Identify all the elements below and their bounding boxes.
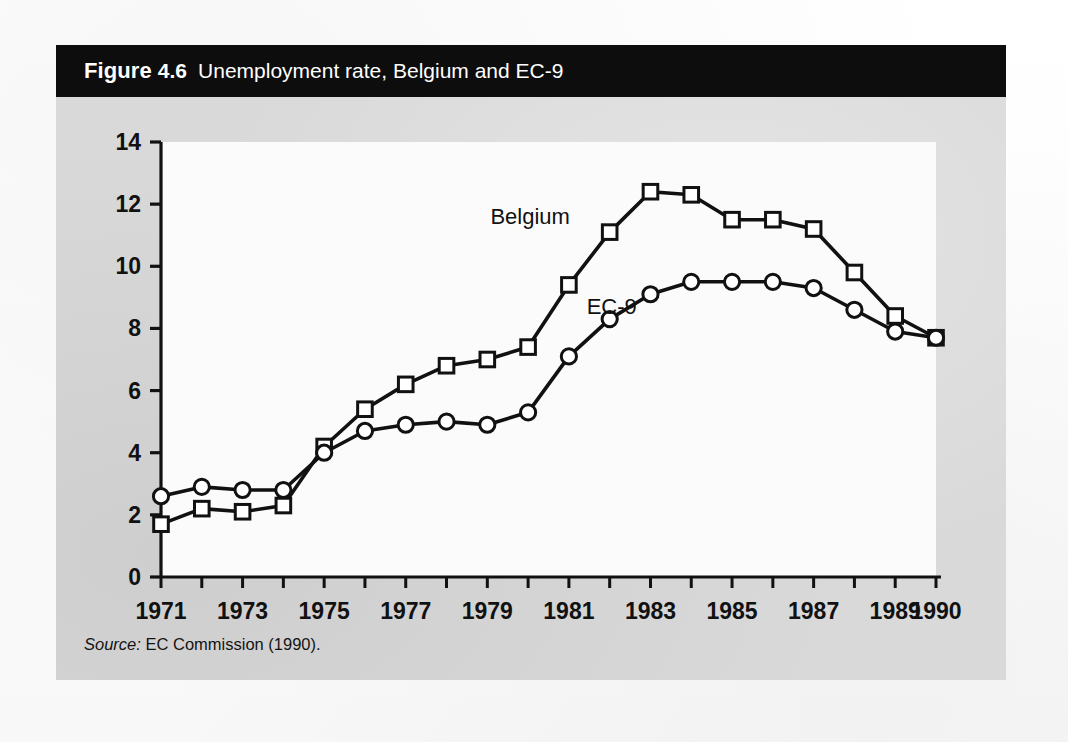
marker-Belgium-1981 [562, 278, 577, 293]
marker-EC-9-1975 [317, 445, 332, 460]
marker-Belgium-1985 [725, 212, 740, 227]
marker-Belgium-1973 [235, 504, 250, 519]
figure-title-bar: Figure 4.6 Unemployment rate, Belgium an… [56, 45, 1006, 97]
marker-Belgium-1972 [194, 501, 209, 516]
marker-EC-9-1977 [398, 417, 413, 432]
marker-EC-9-1984 [684, 274, 699, 289]
marker-EC-9-1980 [521, 405, 536, 420]
marker-Belgium-1982 [602, 225, 617, 240]
figure-caption: Unemployment rate, Belgium and EC-9 [198, 59, 563, 83]
unemployment-line-chart: 0246810121419711973197519771979198119831… [56, 97, 1006, 680]
x-tick-label-1973: 1973 [217, 598, 268, 624]
marker-EC-9-1983 [643, 287, 658, 302]
marker-EC-9-1987 [806, 280, 821, 295]
marker-Belgium-1974 [276, 498, 291, 513]
x-tick-label-1981: 1981 [543, 598, 594, 624]
y-tick-label-8: 8 [128, 315, 141, 341]
y-tick-label-12: 12 [115, 191, 141, 217]
x-tick-label-1971: 1971 [135, 598, 186, 624]
marker-Belgium-1986 [766, 212, 781, 227]
marker-Belgium-1988 [847, 265, 862, 280]
marker-EC-9-1986 [765, 274, 780, 289]
marker-EC-9-1981 [561, 349, 576, 364]
series-label-Belgium: Belgium [490, 204, 569, 229]
y-tick-label-0: 0 [128, 564, 141, 590]
marker-Belgium-1978 [439, 358, 454, 373]
x-tick-label-1977: 1977 [380, 598, 431, 624]
figure-card: Figure 4.6 Unemployment rate, Belgium an… [56, 45, 1006, 680]
marker-EC-9-1972 [194, 479, 209, 494]
marker-EC-9-1988 [847, 302, 862, 317]
marker-Belgium-1984 [684, 188, 699, 203]
marker-EC-9-1985 [724, 274, 739, 289]
source-note: Source: EC Commission (1990). [84, 635, 321, 654]
marker-Belgium-1989 [888, 309, 903, 324]
y-tick-label-4: 4 [128, 440, 141, 466]
y-tick-label-6: 6 [128, 378, 141, 404]
x-tick-label-1983: 1983 [625, 598, 676, 624]
figure-number: 4.6 [158, 59, 187, 83]
marker-EC-9-1990 [928, 330, 943, 345]
marker-EC-9-1978 [439, 414, 454, 429]
chart-plot-area: 0246810121419711973197519771979198119831… [56, 97, 1006, 680]
marker-Belgium-1979 [480, 352, 495, 367]
x-tick-label-1975: 1975 [299, 598, 350, 624]
marker-EC-9-1974 [276, 482, 291, 497]
x-tick-label-1979: 1979 [462, 598, 513, 624]
source-text: EC Commission (1990). [141, 635, 321, 653]
y-tick-label-10: 10 [115, 253, 141, 279]
y-tick-label-14: 14 [115, 129, 141, 155]
marker-Belgium-1971 [154, 517, 169, 532]
marker-Belgium-1983 [643, 184, 658, 199]
marker-Belgium-1976 [358, 402, 373, 417]
marker-EC-9-1973 [235, 482, 250, 497]
marker-EC-9-1971 [153, 489, 168, 504]
marker-EC-9-1989 [888, 324, 903, 339]
marker-Belgium-1977 [398, 377, 413, 392]
marker-EC-9-1979 [480, 417, 495, 432]
x-tick-label-1985: 1985 [706, 598, 757, 624]
marker-Belgium-1987 [806, 222, 821, 237]
marker-Belgium-1980 [521, 340, 536, 355]
x-tick-label-1990: 1990 [910, 598, 961, 624]
figure-label: Figure [84, 58, 152, 84]
x-tick-label-1987: 1987 [788, 598, 839, 624]
marker-EC-9-1976 [357, 423, 372, 438]
figure-page: ·········· ···· ······· ·· ·········· ··… [0, 0, 1068, 742]
y-tick-label-2: 2 [128, 502, 141, 528]
source-label: Source: [84, 635, 141, 653]
series-label-EC-9: EC-9 [587, 294, 637, 319]
